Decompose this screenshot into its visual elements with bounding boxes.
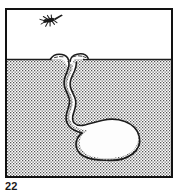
illustration-panel — [5, 8, 173, 178]
figure-number-label: 22 — [5, 180, 18, 193]
burrow-cross-section-drawing — [7, 10, 171, 176]
figure-container: 22 — [0, 0, 180, 196]
water-column-region — [7, 10, 171, 59]
